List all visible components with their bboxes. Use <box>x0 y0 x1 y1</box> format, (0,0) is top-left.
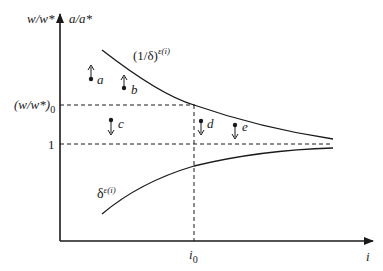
lower-curve <box>102 148 333 214</box>
point-e: e <box>232 119 248 139</box>
diagram-canvas: w/w* a/a* i (w/w*)0 1 i0 (1/δ)ε(i) δε(i)… <box>0 0 383 271</box>
x-tick-i0: i0 <box>189 247 198 265</box>
lower-curve-label: δε(i) <box>97 185 116 201</box>
point-c: c <box>108 116 124 135</box>
x-axis-label-i: i <box>366 249 370 264</box>
point-b-label: b <box>131 82 138 97</box>
y-tick-w0: (w/w*)0 <box>14 97 55 115</box>
point-a: a <box>88 65 104 87</box>
point-c-label: c <box>118 116 124 131</box>
point-a-label: a <box>97 72 104 87</box>
point-d-label: d <box>207 116 214 131</box>
point-e-label: e <box>242 119 248 134</box>
point-d: d <box>198 116 214 135</box>
y-tick-one: 1 <box>48 137 55 152</box>
y-axis-label-right: a/a* <box>69 11 93 26</box>
upper-curve-label: (1/δ)ε(i) <box>133 46 170 63</box>
y-axis-label-left: w/w* <box>27 11 55 26</box>
point-b: b <box>121 75 138 97</box>
